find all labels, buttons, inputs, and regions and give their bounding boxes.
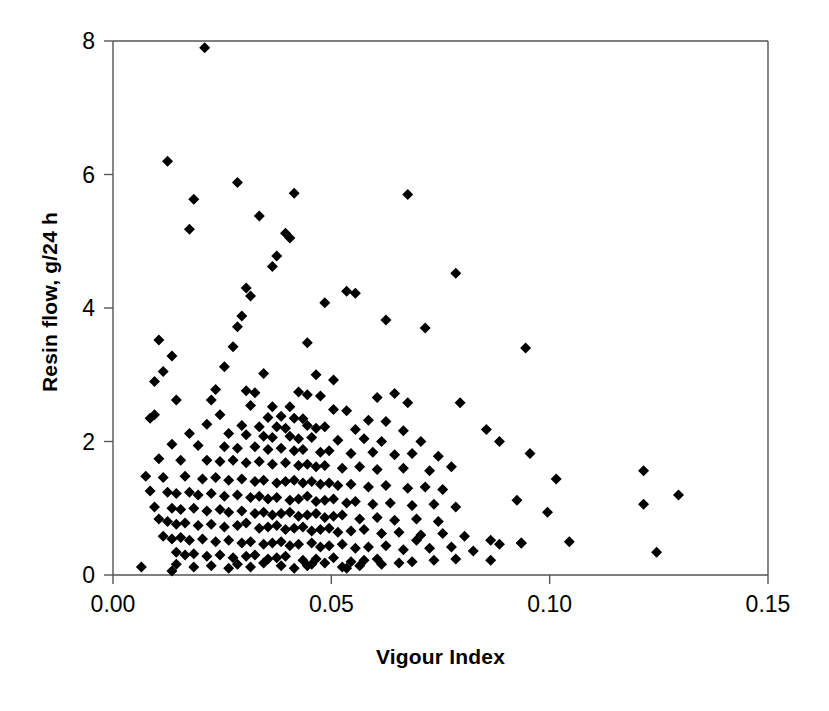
data-point [402,483,413,494]
data-point [158,472,169,483]
data-point [171,395,182,406]
data-point [394,557,405,568]
data-point [236,537,247,548]
data-point [271,477,282,488]
data-point [367,447,378,458]
data-point [564,536,575,547]
data-point [232,321,243,332]
data-point [363,481,374,492]
data-point [280,476,291,487]
data-point [446,541,457,552]
data-point [180,471,191,482]
data-point [193,440,204,451]
data-point [394,527,405,538]
data-point [280,551,291,562]
data-point [236,505,247,516]
data-point [455,397,466,408]
data-point [263,444,274,455]
data-point [459,531,470,542]
data-point [223,475,234,486]
data-point [245,561,256,572]
data-point [258,507,269,518]
data-point [350,288,361,299]
data-point [511,495,522,506]
data-point [145,485,156,496]
data-point [332,480,343,491]
data-point [199,42,210,53]
data-point [437,484,448,495]
data-point [315,391,326,402]
data-point [363,541,374,552]
data-point [162,156,173,167]
data-point [258,431,269,442]
data-point [289,413,300,424]
data-point [162,516,173,527]
data-point [171,547,182,558]
data-point [415,436,426,447]
data-point [180,549,191,560]
data-point [324,540,335,551]
data-point [201,455,212,466]
data-point [241,551,252,562]
data-point [328,404,339,415]
data-point [245,536,256,547]
data-point [389,449,400,460]
data-point [485,555,496,566]
data-point [201,551,212,562]
data-point [407,556,418,567]
data-point [267,509,278,520]
data-point [315,447,326,458]
data-point [302,491,313,502]
data-point [232,489,243,500]
data-point [206,488,217,499]
data-point [184,487,195,498]
data-point [319,495,330,506]
data-point [249,549,260,560]
data-point [372,512,383,523]
data-point [407,500,418,511]
y-tick-label: 8 [43,28,95,55]
y-tick-label: 6 [43,161,95,188]
data-point [236,473,247,484]
data-point [153,335,164,346]
data-point [306,476,317,487]
data-point [184,428,195,439]
data-point [153,453,164,464]
data-point [149,376,160,387]
data-point [437,528,448,539]
data-point [214,549,225,560]
data-point [293,433,304,444]
data-point [249,508,260,519]
data-point [276,443,287,454]
data-point [407,448,418,459]
data-point [350,543,361,554]
data-point [293,493,304,504]
data-point [328,511,339,522]
data-point [263,412,274,423]
data-point [289,563,300,574]
data-point [171,519,182,530]
data-point [311,461,322,472]
data-point [450,268,461,279]
data-point [197,473,208,484]
data-point [241,457,252,468]
data-point [450,501,461,512]
data-point [249,441,260,452]
data-point [297,477,308,488]
data-point [354,513,365,524]
data-point [402,397,413,408]
data-point [254,523,265,534]
x-tick-label: 0.05 [309,591,354,618]
data-point [223,535,234,546]
data-point [180,517,191,528]
data-point [267,432,278,443]
data-point [376,436,387,447]
data-point [420,323,431,334]
data-point [319,421,330,432]
data-point [450,553,461,564]
data-point [302,389,313,400]
data-point [245,492,256,503]
data-point [337,463,348,474]
data-point [289,475,300,486]
data-point [525,448,536,459]
